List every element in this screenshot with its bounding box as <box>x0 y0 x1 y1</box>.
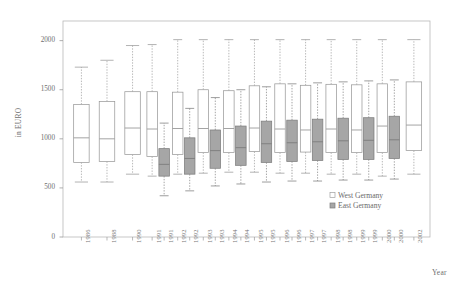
legend-label: East Germany <box>338 201 381 210</box>
x-tick-label: 1995 <box>257 229 264 243</box>
x-tick-label: 1998 <box>346 229 353 243</box>
x-tick-label: 1994 <box>231 229 238 243</box>
x-tick-label: 1993 <box>218 229 225 243</box>
y-tick-label: 0 <box>25 233 55 241</box>
x-tick-label: 1990 <box>135 229 142 243</box>
x-tick-label: 1994 <box>243 229 250 243</box>
x-tick-label: 1995 <box>269 229 276 243</box>
y-axis-title: in EURO <box>14 93 23 153</box>
x-tick-label: 1986 <box>84 229 91 243</box>
x-tick-label: 1988 <box>110 229 117 243</box>
chart-canvas <box>0 0 463 288</box>
x-tick-label: 1998 <box>334 229 341 243</box>
x-tick-label: 1996 <box>283 229 290 243</box>
y-tick-label: 1500 <box>25 85 55 93</box>
boxplot-chart: in EURO Year 0500100015002000 1986198819… <box>0 0 463 288</box>
x-tick-label: 1992 <box>192 229 199 243</box>
x-tick-label: 2000 <box>385 229 392 243</box>
x-tick-label: 1991 <box>155 229 162 243</box>
x-tick-label: 1992 <box>180 229 187 243</box>
x-tick-label: 2000 <box>397 229 404 243</box>
x-tick-label: 1991 <box>167 229 174 243</box>
x-tick-label: 1999 <box>359 229 366 243</box>
y-tick-label: 1000 <box>25 134 55 142</box>
legend-swatch <box>330 193 335 198</box>
x-tick-label: 1993 <box>206 229 213 243</box>
x-axis-title: Year <box>432 268 447 277</box>
y-tick-label: 500 <box>25 183 55 191</box>
legend-swatch <box>330 203 335 208</box>
legend-label: West Germany <box>338 191 383 200</box>
x-tick-label: 2002 <box>416 229 423 243</box>
x-tick-label: 1996 <box>295 229 302 243</box>
x-tick-label: 1997 <box>308 229 315 243</box>
y-tick-label: 2000 <box>25 36 55 44</box>
x-tick-label: 1997 <box>320 229 327 243</box>
x-tick-label: 1999 <box>371 229 378 243</box>
